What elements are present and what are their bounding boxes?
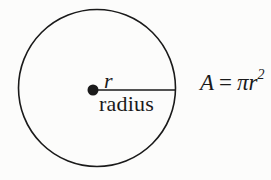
- center-dot: [88, 85, 99, 96]
- formula-exponent: 2: [258, 67, 265, 82]
- area-formula: A=πr2: [200, 71, 265, 94]
- formula-equals-sign: =: [214, 70, 237, 95]
- circle-area-figure: r radius A=πr2: [0, 0, 271, 180]
- radius-symbol-label: r: [104, 70, 113, 92]
- formula-rhs-base: πr: [237, 70, 257, 95]
- radius-word-label: radius: [99, 93, 154, 115]
- formula-lhs: A: [200, 70, 214, 95]
